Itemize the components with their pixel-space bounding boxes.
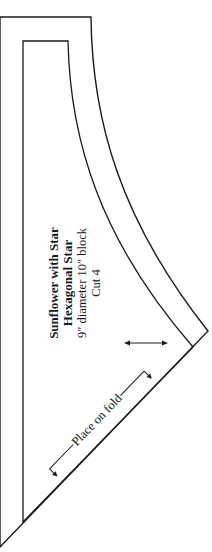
pattern-subtitle: Hexagonal Star: [60, 240, 75, 327]
place-on-fold-bracket: Place on fold: [43, 364, 154, 478]
pattern-size: 9″ diameter 10″ block: [75, 227, 89, 338]
pattern-title: Sunflower with Star: [46, 227, 61, 339]
quilt-template: Place on fold Sunflower with Star Hexago…: [0, 0, 212, 552]
pattern-label-block: Sunflower with Star Hexagonal Star 9″ di…: [46, 227, 103, 339]
fold-label: Place on fold: [69, 391, 125, 449]
pattern-cut-count: Cut 4: [89, 269, 103, 297]
outer-cutting-line: [0, 17, 208, 547]
grain-line-arrow-icon: [124, 341, 168, 346]
